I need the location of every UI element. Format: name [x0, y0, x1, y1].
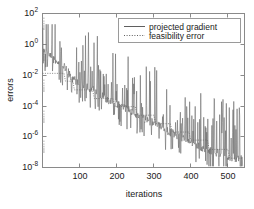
x-tick-label-0: 100: [64, 171, 96, 181]
y-tick-label-1: 100: [8, 39, 38, 49]
x-tick-label-3: 400: [175, 171, 207, 181]
x-tick-label-2: 300: [138, 171, 170, 181]
series-projected-gradient: [43, 24, 243, 166]
y-tick-label-3: 10-4: [8, 101, 38, 111]
y-tick-label-0: 102: [8, 8, 38, 18]
series-layer: [43, 24, 243, 166]
y-tick-label-2: 10-2: [8, 70, 38, 80]
chart-figure: errors iterations 102 100 10-2 10-4 10-6…: [0, 0, 254, 209]
legend-label-feasibility-error: feasibility error: [149, 31, 204, 41]
y-tick-label-5: 10-8: [8, 162, 38, 172]
x-tick-label-1: 200: [101, 171, 133, 181]
x-tick-label-4: 500: [212, 171, 244, 181]
x-axis-label: iterations: [42, 189, 246, 199]
y-tick-label-4: 10-6: [8, 131, 38, 141]
